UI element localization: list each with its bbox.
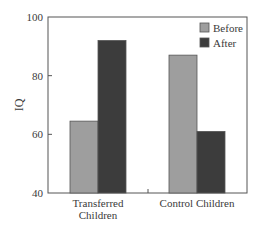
legend: BeforeAfter	[200, 22, 243, 49]
legend-label-before: Before	[213, 22, 243, 34]
bar-before	[70, 121, 98, 193]
legend-swatch-before	[200, 23, 209, 32]
y-tick-label: 40	[32, 187, 44, 199]
y-tick-label: 60	[32, 128, 44, 140]
bar-before	[169, 55, 197, 193]
x-category-label: Children	[79, 209, 118, 221]
bars	[70, 40, 225, 193]
legend-swatch-after	[200, 38, 209, 47]
bar-after	[98, 40, 126, 193]
x-category-label: Control Children	[160, 197, 235, 209]
bar-chart: 406080100IQ BeforeAfter TransferredChild…	[0, 0, 259, 228]
legend-label-after: After	[213, 37, 237, 49]
bar-after	[197, 131, 225, 193]
x-category-label: Transferred	[73, 197, 124, 209]
y-tick-label: 80	[32, 70, 44, 82]
labels: TransferredChildrenControl Children	[73, 197, 235, 221]
y-tick-label: 100	[27, 11, 44, 23]
y-axis-label: IQ	[12, 98, 26, 111]
